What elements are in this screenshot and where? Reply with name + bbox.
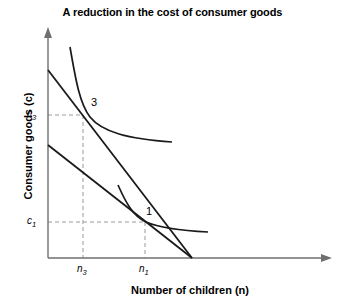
y-axis-title: Consumer goods (c)	[22, 66, 34, 226]
y-tick-label-c3: c3	[27, 108, 36, 122]
x-tick-label-n1: n1	[139, 263, 149, 277]
indifference-curve-low	[118, 185, 208, 232]
chart-figure: A reduction in the cost of consumer good…	[0, 0, 345, 306]
budget-line-after-cost-reduction	[48, 70, 192, 258]
y-axis-arrow-icon	[44, 27, 52, 38]
point-label-1: 1	[146, 205, 152, 217]
indifference-curve-high	[70, 47, 172, 142]
x-tick-label-n3: n3	[77, 263, 87, 277]
x-axis-title: Number of children (n)	[60, 284, 320, 296]
y-tick-label-c1: c1	[27, 215, 36, 229]
budget-line-initial	[48, 145, 192, 258]
point-label-3: 3	[91, 96, 97, 108]
x-axis-arrow-icon	[321, 254, 332, 262]
plot-area	[0, 0, 345, 306]
